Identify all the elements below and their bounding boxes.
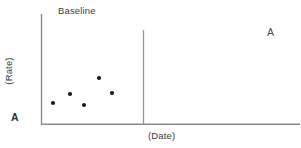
phase-label-a-right: A [267, 27, 274, 38]
data-points-group [51, 76, 114, 107]
axes-group [41, 14, 300, 125]
plot-area [0, 0, 301, 148]
phase-label-a-left: A [11, 112, 19, 123]
data-point [51, 101, 55, 105]
data-point [110, 91, 114, 95]
y-axis-label: (Rate) [3, 48, 14, 94]
data-point [68, 92, 72, 96]
baseline-graph-figure: Baseline (Rate) (Date) A A [0, 0, 301, 148]
data-point [97, 76, 101, 80]
x-axis-label: (Date) [148, 130, 175, 141]
phase-title-baseline: Baseline [58, 5, 96, 16]
data-point [82, 103, 86, 107]
